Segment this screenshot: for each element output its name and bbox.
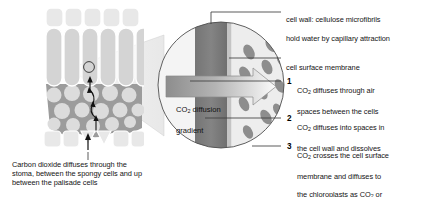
leaf-cross-section [44,8,150,147]
callout-cell-wall: cell wall: cellulose microfibrils hold w… [286,6,422,43]
co2-gradient-label: CO2 diffusion gradient [176,95,221,136]
step-3-line2: membrane and diffuses to [297,172,381,181]
co2-gradient-label-line2: gradient [176,126,203,135]
palisade-cells [46,28,150,86]
step-2-number: 2 [287,114,292,123]
step-3-text: CO2 crosses the cell surface membrane an… [297,142,423,197]
diagram-figure: CO2 diffusion gradient cell wall: cellul… [0,0,424,197]
step-1-text: CO2 diffuses through air spaces between … [297,77,423,116]
callout-cell-wall-line1: cell wall: cellulose microfibrils [286,15,380,24]
leaf-caption: Carbon dioxide diffuses through the stom… [12,160,144,188]
callout-membrane-label: cell surface membrane [286,63,360,72]
step-2-line1: CO2 diffuses into spaces in [297,123,384,132]
step-3-number: 3 [287,142,292,151]
step-3-line1: CO2 crosses the cell surface [297,151,389,160]
upper-epidermis [46,8,139,27]
step-1-line1: CO2 diffuses through air [297,86,375,95]
step-1-number: 1 [287,77,292,86]
callout-cell-surface-membrane: cell surface membrane [286,54,422,72]
callout-cell-wall-line2: hold water by capillary attraction [286,34,390,43]
co2-gradient-label-line1: CO2 diffusion [176,105,221,114]
step-3-line3: the chloroplasts as CO2 or [297,190,382,197]
